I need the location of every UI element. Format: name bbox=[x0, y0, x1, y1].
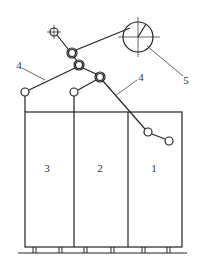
label-drum: 5 bbox=[183, 74, 189, 86]
double-pulley-right-icon bbox=[95, 72, 105, 82]
pulley-right-end-icon bbox=[165, 137, 173, 145]
double-pulley-middle-icon bbox=[74, 60, 84, 70]
cables bbox=[29, 28, 165, 139]
cabinet-feet bbox=[33, 247, 170, 253]
label-cable-right: 4 bbox=[138, 71, 144, 83]
double-pulley-upper-icon bbox=[67, 48, 77, 58]
pulley-center-icon bbox=[70, 88, 78, 96]
label-cabinet-1: 1 bbox=[151, 162, 157, 174]
pulley-left-icon bbox=[21, 88, 29, 96]
label-cabinet-2: 2 bbox=[97, 162, 103, 174]
pulley-cabinet-diagram: 3 2 1 4 4 5 bbox=[0, 0, 201, 270]
pulley-right-lower-icon bbox=[144, 128, 152, 136]
cabinet-frame bbox=[25, 112, 182, 247]
label-cable-left: 4 bbox=[16, 59, 22, 71]
drum-icon bbox=[118, 17, 160, 57]
leader-lines bbox=[22, 46, 183, 96]
label-cabinet-3: 3 bbox=[44, 162, 50, 174]
